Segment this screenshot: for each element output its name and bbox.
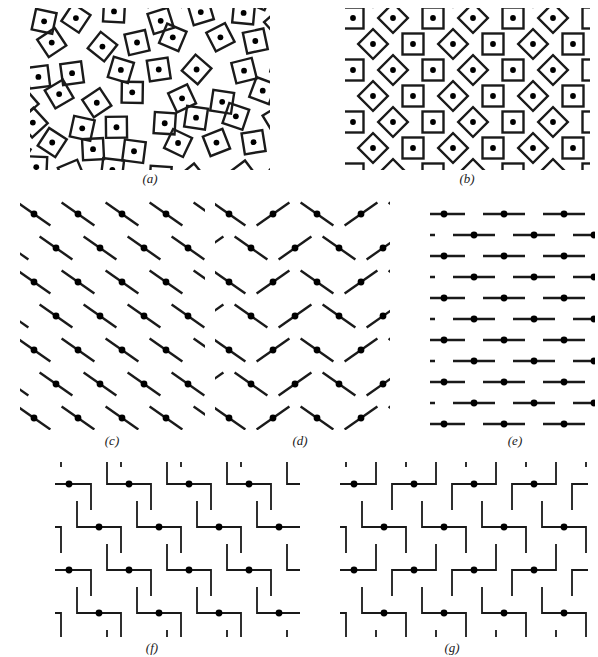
stimulus-panel-e	[430, 200, 595, 430]
stimulus-panel-b	[345, 8, 590, 170]
panel-label-g: (g)	[432, 641, 472, 654]
stimulus-panel-a	[30, 8, 270, 170]
stimulus-panel-d	[215, 200, 390, 430]
panel-label-b: (b)	[447, 172, 487, 185]
panel-label-e: (e)	[495, 434, 535, 447]
panel-label-c: (c)	[92, 434, 132, 447]
panel-label-a: (a)	[130, 172, 170, 185]
panel-label-f: (f)	[132, 641, 172, 654]
stimulus-panel-c	[20, 200, 205, 430]
stimulus-panel-g	[340, 462, 588, 637]
figure-panel-grid: (a)(b)(c)(d)(e)(f)(g)	[0, 0, 598, 657]
stimulus-panel-f	[55, 462, 300, 637]
panel-label-d: (d)	[280, 434, 320, 447]
